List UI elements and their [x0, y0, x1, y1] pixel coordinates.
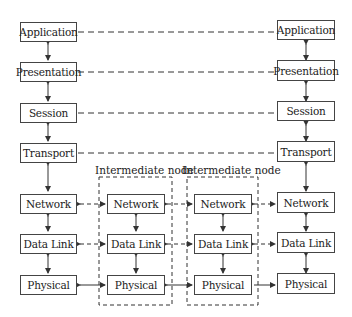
node1-physical-layer: Physical [107, 275, 165, 295]
right-presentation-layer: Presentation [277, 60, 335, 81]
node2-network-layer: Network [194, 194, 252, 214]
left-transport-layer: Transport [20, 143, 77, 163]
node1-datalink-layer: Data Link [107, 234, 165, 254]
node2-datalink-layer: Data Link [194, 234, 252, 254]
left-session-layer: Session [20, 103, 77, 123]
right-application-layer: Application [277, 20, 335, 40]
left-datalink-layer: Data Link [20, 234, 77, 254]
right-session-layer: Session [277, 101, 335, 121]
intermediate-node-label-1: Intermediate node [95, 164, 194, 176]
right-transport-layer: Transport [277, 141, 335, 162]
intermediate-node-label-2: Intermediate node [182, 164, 281, 176]
left-presentation-layer: Presentation [20, 62, 77, 82]
left-application-layer: Application [20, 22, 77, 42]
right-datalink-layer: Data Link [277, 232, 335, 253]
left-network-layer: Network [20, 194, 77, 214]
node2-physical-layer: Physical [194, 275, 252, 295]
right-physical-layer: Physical [277, 273, 335, 294]
node1-network-layer: Network [107, 194, 165, 214]
right-network-layer: Network [277, 192, 335, 213]
left-physical-layer: Physical [20, 275, 77, 295]
